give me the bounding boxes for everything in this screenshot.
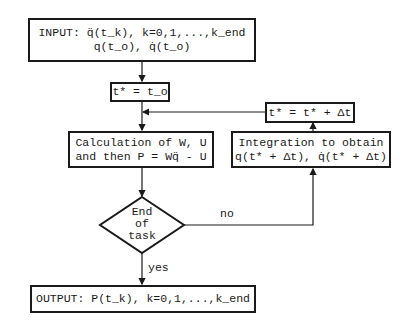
init-box: t* = t_o <box>110 82 170 102</box>
integration-line-2: q(t* + Δt), q̇(t* + Δt) <box>235 150 387 164</box>
decision-text: End of task <box>112 206 172 242</box>
init-text: t* = t_o <box>112 85 167 99</box>
calc-line-2: and then P = Wq̈ - U <box>75 150 206 164</box>
integration-box: Integration to obtain q(t* + Δt), q̇(t* … <box>231 131 391 168</box>
yes-label: yes <box>148 261 169 274</box>
update-box: t* = t* + Δt <box>265 102 355 123</box>
integration-line-1: Integration to obtain <box>239 136 384 150</box>
decision-line-3: task <box>112 230 172 242</box>
output-text: OUTPUT: P(t_k), k=0,1,...,k_end <box>36 292 250 306</box>
update-text: t* = t* + Δt <box>269 106 352 120</box>
no-label: no <box>220 207 234 220</box>
input-line-1: INPUT: q̈(t_k), k=0,1,...,k_end <box>38 26 245 40</box>
calc-line-1: Calculation of W, U <box>75 136 206 150</box>
arrow-no-to-integration <box>184 169 313 225</box>
input-line-2: q(t_o), q̇(t_o) <box>94 40 191 54</box>
calculation-box: Calculation of W, U and then P = Wq̈ - U <box>68 131 214 168</box>
output-box: OUTPUT: P(t_k), k=0,1,...,k_end <box>30 285 256 313</box>
input-box: INPUT: q̈(t_k), k=0,1,...,k_end q(t_o), … <box>28 18 256 62</box>
